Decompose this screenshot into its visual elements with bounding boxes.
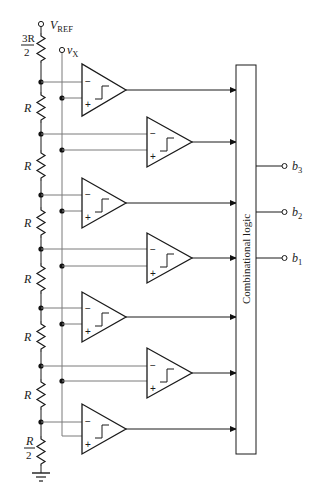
comparator-3: − +: [82, 178, 236, 228]
svg-text:−: −: [150, 360, 156, 371]
resistor-labels: 3R 2 R R R R R R R 2: [21, 32, 36, 461]
svg-text:R: R: [23, 216, 32, 230]
svg-text:−: −: [85, 189, 91, 200]
svg-text:R: R: [23, 388, 32, 402]
comparator-1: − +: [82, 64, 236, 116]
svg-text:−: −: [150, 244, 156, 255]
svg-text:Combinational logic: Combinational logic: [240, 214, 252, 304]
combinational-logic-block: Combinational logic: [236, 65, 256, 454]
comparator-input-wires: [41, 82, 147, 422]
svg-text:+: +: [85, 212, 91, 223]
svg-text:b2: b2: [292, 205, 302, 221]
svg-text:−: −: [85, 303, 91, 314]
top-resistor-den: 2: [24, 46, 30, 58]
svg-text:R: R: [23, 272, 32, 286]
svg-text:+: +: [150, 268, 156, 279]
svg-text:−: −: [85, 416, 91, 427]
svg-text:R: R: [23, 159, 32, 173]
output-b3: b3: [256, 159, 302, 175]
svg-text:−: −: [85, 76, 91, 87]
output-b2: b2: [256, 205, 302, 221]
svg-text:R: R: [23, 101, 32, 115]
bottom-resistor-den: 2: [26, 449, 32, 461]
comparator-5: − +: [82, 292, 236, 342]
svg-text:+: +: [85, 439, 91, 450]
flash-adc-diagram: VREF 3R: [0, 0, 317, 501]
svg-text:−: −: [150, 128, 156, 139]
comparator-2: − +: [147, 117, 236, 167]
comparator-4: − +: [147, 233, 236, 283]
svg-text:+: +: [85, 326, 91, 337]
svg-text:b1: b1: [292, 251, 302, 267]
svg-text:R: R: [23, 330, 32, 344]
vref-terminal: VREF: [38, 18, 73, 34]
bottom-resistor-num: R: [25, 434, 34, 448]
top-resistor-num: 3R: [22, 32, 36, 44]
svg-text:vX: vX: [67, 43, 78, 59]
comparator-7: − +: [82, 404, 236, 454]
svg-text:+: +: [150, 151, 156, 162]
svg-text:VREF: VREF: [50, 18, 73, 34]
comparator-6: − +: [147, 348, 236, 398]
svg-text:+: +: [85, 99, 91, 110]
ground-icon: [32, 473, 50, 481]
output-b1: b1: [256, 251, 302, 267]
svg-text:+: +: [150, 383, 156, 394]
svg-text:b3: b3: [292, 159, 302, 175]
vx-terminal: vX: [59, 43, 82, 436]
